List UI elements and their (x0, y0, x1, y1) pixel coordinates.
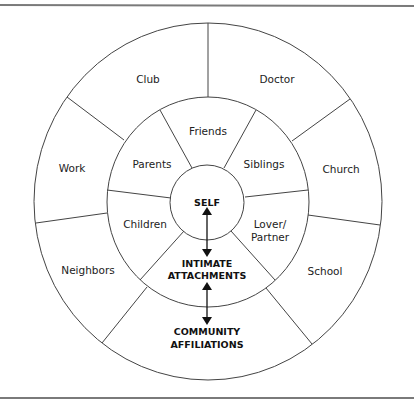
segment-doctor: Doctor (259, 73, 295, 85)
segment-siblings: Siblings (244, 158, 285, 170)
divider-doctor-church (292, 99, 350, 141)
top-rule (0, 5, 414, 6)
intimate-attachments-line1: INTIMATE (182, 258, 233, 269)
segment-club: Club (136, 73, 160, 85)
divider-church-school (308, 215, 380, 225)
community-affiliations-line1: COMMUNITY (174, 326, 241, 337)
segment-church: Church (322, 163, 359, 175)
segment-friends: Friends (189, 125, 227, 137)
diagram-canvas: SELF INTIMATE ATTACHMENTS COMMUNITY AFFI… (0, 0, 414, 401)
segment-parents: Parents (132, 158, 171, 170)
segment-partner-line2: Partner (251, 231, 290, 243)
self-label: SELF (194, 197, 220, 208)
arrow-intimate-community-icon (202, 282, 212, 325)
divider-club-work (67, 97, 124, 140)
arrow-self-intimate-icon (202, 207, 212, 257)
segment-school: School (308, 265, 343, 277)
divider-parents-children (107, 190, 171, 198)
divider-neighbors-community (102, 287, 147, 343)
divider-school-community (266, 288, 312, 344)
concentric-circles-diagram: SELF INTIMATE ATTACHMENTS COMMUNITY AFFI… (0, 0, 414, 401)
community-affiliations-line2: AFFILIATIONS (171, 339, 244, 350)
segment-work: Work (59, 162, 87, 174)
intimate-attachments-line2: ATTACHMENTS (168, 270, 247, 281)
divider-work-neighbors (36, 213, 107, 223)
segment-neighbors: Neighbors (61, 264, 114, 276)
segment-lover-line1: Lover/ (254, 218, 287, 230)
divider-siblings-lover (245, 190, 308, 197)
segment-children: Children (123, 218, 167, 230)
